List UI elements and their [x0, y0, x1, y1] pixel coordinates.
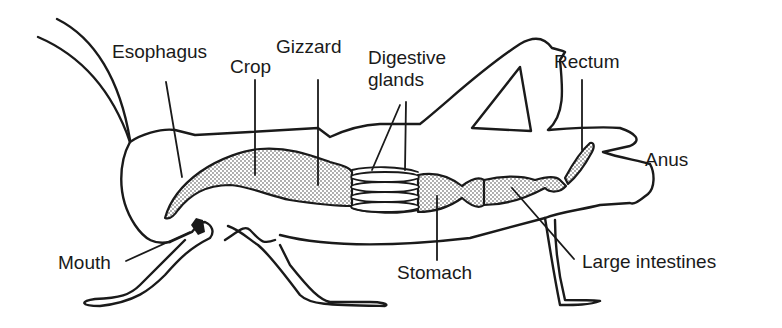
digestive-glands: [351, 167, 419, 213]
label-rectum: Rectum: [554, 52, 619, 72]
leader-digestive-glands-b: [405, 102, 406, 170]
label-crop: Crop: [230, 57, 271, 77]
label-digestive-glands-line1: Digestive: [368, 48, 446, 68]
grasshopper-digestive-diagram: Esophagus Crop Gizzard Digestive glands …: [0, 0, 782, 328]
label-anus: Anus: [645, 150, 688, 170]
leader-mouth: [126, 232, 190, 261]
leader-digestive-glands-a: [372, 105, 400, 170]
antenna: [57, 19, 130, 140]
label-esophagus: Esophagus: [112, 42, 207, 62]
large-intestine: [484, 177, 566, 205]
head-outline: [121, 142, 170, 243]
label-large-intestines: Large intestines: [582, 252, 716, 272]
body-outline-ventral: [280, 218, 545, 244]
label-gizzard: Gizzard: [276, 37, 341, 57]
hind-femur-window: [472, 67, 531, 131]
rectum: [565, 143, 594, 184]
label-stomach: Stomach: [397, 263, 472, 283]
stomach: [418, 174, 486, 212]
label-mouth: Mouth: [58, 253, 111, 273]
foregut: [165, 149, 352, 219]
middle-leg: [228, 226, 386, 306]
label-digestive-glands-line2: glands: [368, 70, 424, 90]
